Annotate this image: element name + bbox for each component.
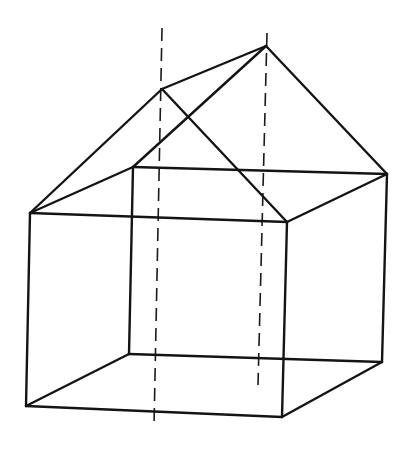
house-wireframe-drawing [0,0,411,451]
edge-back-top-right-to-back-bottom-right [382,174,387,362]
edge-back-top-left-to-back-bottom-left [129,167,133,354]
edge-back-top-left-to-roof-peak-back [133,46,266,167]
back-peak-axis [258,33,267,385]
edge-front-top-left-to-front-bottom-left [26,213,30,406]
edge-roof-peak-front-to-roof-peak-back [162,46,266,89]
house-diagram [0,0,411,451]
edge-front-top-left-to-back-top-left [30,167,133,213]
edge-front-bottom-right-to-back-bottom-right [282,362,382,417]
solid-edges [26,46,387,417]
edge-back-bottom-left-to-back-bottom-right [129,354,382,362]
edge-front-top-right-to-roof-peak-front [162,89,287,222]
dashed-axes [154,28,267,426]
edge-back-top-right-to-roof-peak-back [266,46,387,174]
edge-front-top-left-to-roof-peak-front [30,89,162,213]
edge-front-top-right-to-front-bottom-right [282,222,287,417]
edge-front-top-right-to-back-top-right [287,174,387,222]
edge-back-top-left-to-back-top-right [133,167,387,174]
edge-front-bottom-left-to-back-bottom-left [26,354,129,406]
front-peak-axis [154,28,162,426]
